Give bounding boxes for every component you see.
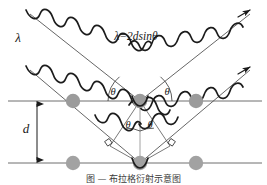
wave-lower-incident xyxy=(26,65,170,114)
bragg-equation-label: λ=2dsinθ xyxy=(113,30,158,42)
theta-lower-left-label: θ xyxy=(125,119,130,130)
bragg-diffraction-figure: λ λ=2dsinθ d θ θ θ θ 图 — 布拉格衍射示意图 xyxy=(0,0,267,185)
arrow-lower-beam xyxy=(238,67,250,74)
atom xyxy=(189,156,203,170)
ray-incoming-upper xyxy=(30,14,140,101)
wavelength-label: λ xyxy=(14,30,21,45)
ray-incoming-lower xyxy=(30,70,140,163)
theta-upper-left-label: θ xyxy=(110,86,115,97)
wave-bottom-incident-tail xyxy=(95,113,178,130)
atom xyxy=(66,156,80,170)
theta-upper-right-label: θ xyxy=(164,86,169,97)
perpendicular-right xyxy=(140,101,170,146)
atom xyxy=(66,94,80,108)
figure-caption: 图 — 布拉格衍射示意图 xyxy=(0,173,267,185)
theta-lower-right-label: θ xyxy=(147,119,152,130)
lattice-planes xyxy=(8,101,262,163)
d-spacing-label: d xyxy=(23,121,30,136)
ray-outgoing-upper xyxy=(140,14,250,101)
path-difference-construction xyxy=(105,101,176,163)
atom xyxy=(189,94,203,108)
bragg-diagram-svg: λ λ=2dsinθ d θ θ θ θ xyxy=(0,0,267,185)
